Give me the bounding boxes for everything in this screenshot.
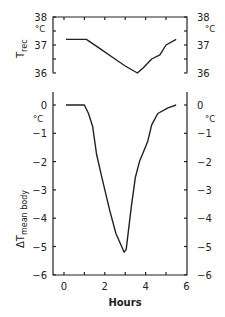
x-tick-labels: 0246 <box>61 281 190 292</box>
bottom-ylabel-main: ΔT <box>15 234 26 248</box>
bottom-right-unit-label: °C <box>205 114 215 124</box>
top-y-axis-title: Trec <box>15 39 29 59</box>
top-y-tick-labels: 363637373838 <box>34 12 209 79</box>
y-tick-label-right: −4 <box>197 213 212 224</box>
top-ylabel-sub: rec <box>20 39 29 51</box>
x-axis-title: Hours <box>108 297 141 308</box>
y-tick-label: 0 <box>41 100 47 111</box>
top-panel: 363637373838 °C °C Trec <box>15 12 215 79</box>
bottom-panel-frame <box>53 92 187 275</box>
y-tick-label-right: 36 <box>197 68 210 79</box>
y-tick-label-right: 0 <box>197 100 203 111</box>
y-tick-label-right: −5 <box>197 242 212 253</box>
y-tick-label-right: 38 <box>197 12 210 23</box>
y-tick-label: 37 <box>34 40 47 51</box>
y-tick-label-right: −2 <box>197 157 212 168</box>
bottom-ylabel-sub: mean body <box>20 190 29 235</box>
x-tick-label: 6 <box>183 281 189 292</box>
y-tick-label-right: −3 <box>197 185 212 196</box>
top-left-unit-label: °C <box>35 24 45 34</box>
x-tick-label: 0 <box>61 281 67 292</box>
trec-line <box>66 39 176 73</box>
y-tick-label-right: −6 <box>197 270 212 281</box>
y-tick-label: 38 <box>34 12 47 23</box>
x-tick-label: 4 <box>142 281 148 292</box>
y-tick-label: −1 <box>32 128 47 139</box>
chart-canvas: 363637373838 °C °C Trec 00−1−1−2−2−3−3−4… <box>0 0 225 317</box>
x-tick-label: 2 <box>102 281 108 292</box>
delta-tmean-body-line <box>66 105 176 252</box>
y-tick-label: 36 <box>34 68 47 79</box>
y-tick-label: −4 <box>32 213 47 224</box>
bottom-panel: 00−1−1−2−2−3−3−4−4−5−5−6−6 0246 °C °C ΔT… <box>15 92 215 308</box>
y-tick-label-right: 37 <box>197 40 210 51</box>
y-tick-label-right: −1 <box>197 128 212 139</box>
bottom-panel-ticks <box>53 105 187 275</box>
bottom-left-unit-label: °C <box>33 114 43 124</box>
y-tick-label: −3 <box>32 185 47 196</box>
top-right-unit-label: °C <box>205 24 215 34</box>
y-tick-label: −5 <box>32 242 47 253</box>
y-tick-label: −6 <box>32 270 47 281</box>
bottom-y-axis-title: ΔTmean body <box>15 190 29 248</box>
y-tick-label: −2 <box>32 157 47 168</box>
